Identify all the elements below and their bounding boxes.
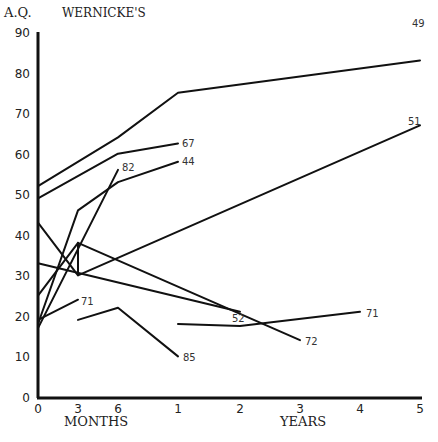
series-label-44: 44 xyxy=(182,156,195,167)
x-tick-7: 5 xyxy=(416,402,424,416)
series-label-52: 52 xyxy=(232,313,245,324)
y-tick-50: 50 xyxy=(15,188,30,202)
chart-title: WERNICKE'S xyxy=(62,6,146,20)
series-lines xyxy=(38,60,420,356)
series-label-71: 71 xyxy=(366,308,379,319)
x-axis-label-months: MONTHS xyxy=(64,414,128,429)
x-tick-4: 2 xyxy=(236,402,244,416)
series-label-72: 72 xyxy=(305,336,318,347)
x-tick-3: 1 xyxy=(174,402,182,416)
aq-line-chart: A.Q. WERNICKE'S 0102030405060708090 0361… xyxy=(0,0,438,442)
y-tick-20: 20 xyxy=(15,310,30,324)
y-tick-labels: 0102030405060708090 xyxy=(15,26,30,405)
y-tick-40: 40 xyxy=(15,229,30,243)
y-tick-80: 80 xyxy=(15,67,30,81)
x-tick-0: 0 xyxy=(34,402,42,416)
series-line-71b xyxy=(178,312,360,326)
y-axis-label: A.Q. xyxy=(3,5,32,20)
y-tick-10: 10 xyxy=(15,350,30,364)
series-label-82: 82 xyxy=(122,162,135,173)
series-label-85: 85 xyxy=(183,352,196,363)
series-label-49: 49 xyxy=(412,18,425,29)
y-tick-60: 60 xyxy=(15,148,30,162)
series-label-67: 67 xyxy=(182,138,195,149)
series-label-71: 71 xyxy=(81,296,94,307)
y-tick-30: 30 xyxy=(15,269,30,283)
series-labels: 49516744827152727185 xyxy=(81,18,425,363)
y-tick-0: 0 xyxy=(22,391,30,405)
series-line-72b xyxy=(78,243,300,340)
series-label-51: 51 xyxy=(408,116,421,127)
x-axis-label-years: YEARS xyxy=(279,414,326,429)
x-tick-6: 4 xyxy=(356,402,364,416)
y-tick-70: 70 xyxy=(15,107,30,121)
y-tick-90: 90 xyxy=(15,26,30,40)
series-line-85 xyxy=(78,308,178,357)
